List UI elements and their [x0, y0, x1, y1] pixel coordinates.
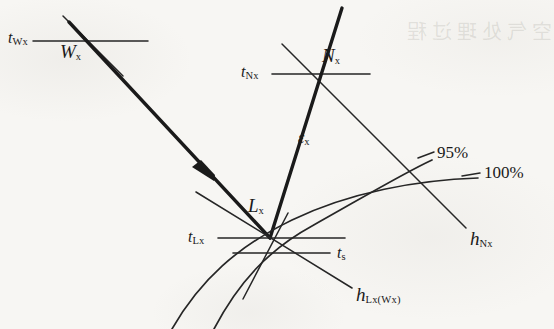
- label-t-wx-sub: Wx: [12, 36, 28, 47]
- label-node-lx-sub: x: [259, 205, 264, 216]
- label-h-lx-wx: hLx(Wx): [356, 285, 401, 306]
- label-t-lx-sub: Lx: [192, 235, 204, 246]
- diagram-svg: [0, 0, 554, 329]
- label-node-wx-var: W: [60, 41, 76, 62]
- label-h-lx-wx-sub: Lx(Wx): [366, 294, 401, 305]
- figure-canvas: 空气处理过程: [0, 0, 554, 329]
- label-curve-95-text: 95%: [437, 143, 468, 162]
- leader-line-95: [418, 152, 434, 158]
- label-t-nx: tNx: [241, 64, 259, 82]
- label-t-nx-sub: Nx: [245, 70, 258, 81]
- label-node-lx: Lx: [248, 196, 264, 217]
- label-node-wx-sub: x: [76, 51, 81, 62]
- process-line-wx-to-lx: [69, 22, 270, 238]
- label-h-nx-sub: Nx: [480, 238, 493, 249]
- label-curve-100-text: 100%: [484, 163, 524, 182]
- label-h-nx: hNx: [470, 229, 493, 250]
- label-h-lx-wx-var: h: [356, 284, 366, 305]
- label-epsilon-x-sub: x: [304, 136, 309, 147]
- label-h-nx-var: h: [470, 228, 480, 249]
- label-node-nx-sub: x: [335, 55, 340, 66]
- label-t-wx: tWx: [8, 30, 28, 48]
- label-t-s: ts: [337, 245, 346, 263]
- process-direction-arrowhead: [192, 160, 215, 181]
- label-node-nx: Nx: [322, 46, 340, 67]
- leader-line-100: [462, 173, 480, 176]
- label-curve-95: 95%: [437, 144, 468, 161]
- label-t-s-sub: s: [341, 251, 345, 262]
- label-node-nx-var: N: [322, 45, 335, 66]
- label-curve-100: 100%: [484, 164, 524, 181]
- label-node-lx-var: L: [248, 195, 259, 216]
- label-t-lx: tLx: [188, 229, 205, 247]
- label-epsilon-x: εx: [298, 130, 310, 148]
- label-node-wx: Wx: [60, 42, 81, 63]
